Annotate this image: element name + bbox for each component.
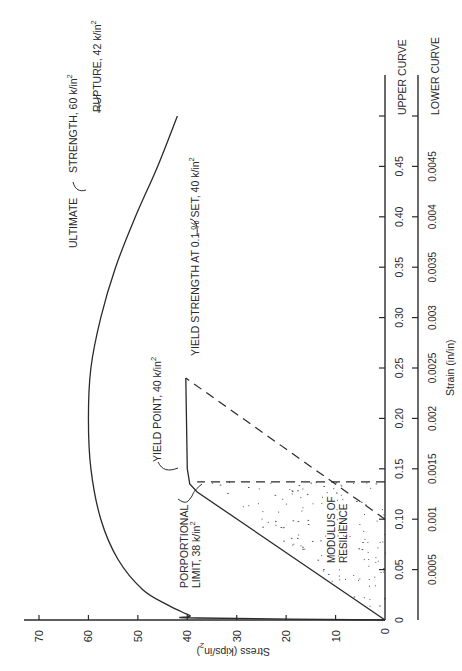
strain-tick-label: 0.0035	[427, 251, 438, 282]
stress-tick-label: 50	[132, 630, 144, 642]
annotation-proportional-limit: PORPORTIONAL LIMIT, 38 k/in2	[178, 505, 202, 588]
strain-tick-label: 0.05	[393, 559, 405, 580]
strain-tick-label: 0.004	[427, 204, 438, 229]
stress-strain-chart: 010203040506070 00.050.100.150.200.250.3…	[0, 0, 462, 671]
strain-tick-label: 0.002	[427, 405, 438, 430]
stress-tick-label: 10	[330, 630, 342, 642]
strain-tick-label: 0.0005	[427, 554, 438, 585]
lower-curve-axis-label: LOWER CURVE	[429, 37, 441, 115]
ultimate-leader-arrow	[73, 182, 86, 191]
annotation-ultimate: ULTIMATE STRENGTH, 60 k/in2	[65, 74, 79, 248]
strain-tick-label: 0.25	[393, 358, 405, 379]
stress-tick-label: 20	[280, 630, 292, 642]
svg-text:ULTIMATE: ULTIMATE	[67, 198, 79, 248]
strain-tick-label: 0.001	[427, 506, 438, 531]
yield-point-leader-arrow	[158, 462, 178, 470]
annotation-modulus-of-resilience: MODULUS OF RESILIENCE	[326, 496, 349, 563]
stress-axis-title: Stress (kips/in2)	[196, 641, 270, 658]
strain-tick-label: 0.30	[393, 307, 405, 328]
annotation-yield-point: YIELD POINT, 40 k/in2	[149, 357, 163, 462]
svg-text:STRENGTH, 60 k/in2: STRENGTH, 60 k/in2	[65, 74, 79, 173]
strain-tick-label: 0.0025	[427, 352, 438, 383]
strain-tick-label: 0.0045	[427, 151, 438, 182]
strain-tick-label: 0.15	[393, 458, 405, 479]
svg-text:MODULUS OF: MODULUS OF	[326, 496, 337, 563]
svg-text:LIMIT, 38 k/in2: LIMIT, 38 k/in2	[188, 521, 202, 588]
offset-line-0-1-percent	[186, 378, 385, 519]
strain-tick-label: 0.45	[393, 156, 405, 177]
upper-curve-axis-label: UPPER CURVE	[396, 39, 408, 115]
annotation-rupture: RUPTURE, 42 k/in2	[89, 20, 103, 112]
svg-text:PORPORTIONAL: PORPORTIONAL	[178, 505, 190, 588]
svg-text:YIELD STRENGTH AT 0.1 % SE: YIELD STRENGTH AT 0.1 % SET, 40 k/in2	[187, 157, 201, 356]
strain-tick-label: 0.35	[393, 257, 405, 278]
upper-strain-axis: 00.050.100.150.200.250.300.350.400.45	[379, 75, 405, 623]
stress-tick-label: 30	[231, 630, 243, 642]
lower-stress-strain-curve	[186, 378, 385, 620]
strain-tick-label: 0.40	[393, 206, 405, 227]
stress-tick-label: 70	[33, 630, 45, 642]
stress-tick-label: 60	[82, 630, 94, 642]
strain-axis-title: Strain (in/in)	[444, 339, 456, 396]
svg-text:YIELD POINT, 40 k/in2: YIELD POINT, 40 k/in2	[149, 357, 163, 462]
annotation-yield-strength: YIELD STRENGTH AT 0.1 % SET, 40 k/in2	[187, 157, 201, 356]
lower-strain-axis: 0.00050.0010.00150.0020.00250.0030.00350…	[412, 75, 438, 620]
strain-tick-label: 0.10	[393, 509, 405, 530]
svg-text:RESILIENCE: RESILIENCE	[338, 503, 349, 563]
stress-tick-label: 40	[181, 630, 193, 642]
strain-tick-label: 0	[393, 617, 405, 623]
stress-tick-label: 0	[379, 628, 391, 634]
svg-text:RUPTURE, 42 k/in2: RUPTURE, 42 k/in2	[89, 20, 103, 112]
strain-tick-label: 0.20	[393, 408, 405, 429]
strain-tick-label: 0.003	[427, 305, 438, 330]
strain-tick-label: 0.0015	[427, 453, 438, 484]
